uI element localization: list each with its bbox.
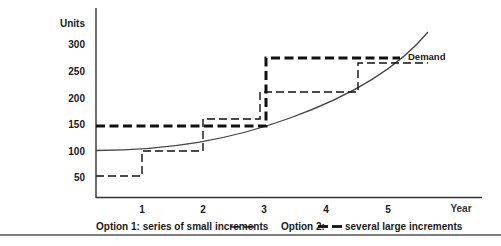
y-tick-250: 250	[68, 66, 85, 77]
y-tick-300: 300	[68, 39, 85, 50]
x-tick-5: 5	[385, 204, 391, 215]
y-axis-title: Units	[60, 18, 85, 29]
x-tick-2: 2	[200, 204, 206, 215]
y-tick-150: 150	[68, 119, 85, 130]
legend-option2-label: several large increments	[345, 221, 463, 232]
x-tick-4: 4	[323, 204, 329, 215]
legend-option1-label: Option 1: series of small increments	[96, 221, 269, 232]
x-tick-3: 3	[261, 204, 267, 215]
x-tick-1: 1	[139, 204, 145, 215]
demand-label: Demand	[408, 51, 446, 62]
x-axis-title: Year	[450, 203, 471, 214]
y-tick-100: 100	[68, 146, 85, 157]
demand-curve	[96, 32, 428, 151]
option1-small-increments-line	[96, 63, 428, 176]
y-tick-200: 200	[68, 93, 85, 104]
capacity-chart: Units 300 250 200 150 100 50 1 2 3 4 5 Y…	[0, 0, 501, 246]
y-tick-50: 50	[74, 172, 86, 183]
